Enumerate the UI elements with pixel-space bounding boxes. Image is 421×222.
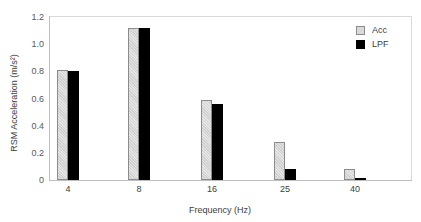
y-tick-label: 0.2 — [20, 148, 44, 158]
x-axis-label: Frequency (Hz) — [180, 205, 260, 215]
bar-chart: 00.20.40.60.81.01.2 48162540 RSM Acceler… — [0, 0, 421, 222]
bar-lpf-4hz — [68, 71, 79, 180]
legend: Acc LPF — [356, 24, 416, 52]
y-tick-label: 1.2 — [20, 12, 44, 22]
y-tick-label: 1.0 — [20, 39, 44, 49]
legend-item-lpf: LPF — [356, 38, 416, 52]
bar-lpf-25hz — [285, 169, 296, 180]
legend-label-lpf: LPF — [372, 39, 389, 50]
x-tick-label: 8 — [124, 184, 154, 194]
y-tick-label: 0.8 — [20, 66, 44, 76]
bar-lpf-16hz — [212, 104, 223, 180]
bar-lpf-8hz — [139, 28, 150, 180]
y-tick-label: 0 — [20, 175, 44, 185]
x-tick-label: 4 — [53, 184, 83, 194]
legend-item-acc: Acc — [356, 24, 416, 38]
x-tick-label: 25 — [270, 184, 300, 194]
y-tick-label: 0.6 — [20, 94, 44, 104]
bar-acc-8hz — [128, 28, 139, 180]
bar-acc-16hz — [201, 100, 212, 180]
x-axis-line — [49, 180, 412, 181]
lpf-swatch-icon — [356, 40, 365, 49]
x-tick-label: 16 — [197, 184, 227, 194]
y-tick-label: 0.4 — [20, 121, 44, 131]
legend-label-acc: Acc — [372, 25, 387, 36]
bar-lpf-40hz — [355, 178, 366, 180]
acc-swatch-icon — [356, 26, 365, 35]
bar-acc-25hz — [274, 142, 285, 180]
y-axis-label: RSM Acceleration (m/s²) — [9, 33, 19, 173]
bar-acc-40hz — [344, 169, 355, 180]
x-tick-label: 40 — [340, 184, 370, 194]
bar-acc-4hz — [57, 70, 68, 180]
